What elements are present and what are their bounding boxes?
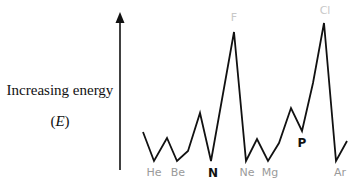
element-label-p: P (298, 136, 307, 150)
element-label-mg: Mg (262, 166, 278, 179)
element-label-n: N (208, 166, 218, 180)
element-label-ne: Ne (240, 166, 255, 179)
energy-chart: HeBeNFNeMgPClAr (0, 0, 356, 193)
element-label-he: He (146, 166, 161, 179)
arrowhead-icon (116, 12, 125, 23)
element-label-be: Be (171, 166, 186, 179)
element-label-cl: Cl (320, 4, 331, 17)
element-labels: HeBeNFNeMgPClAr (146, 4, 346, 180)
element-label-ar: Ar (334, 166, 347, 179)
energy-line (143, 23, 347, 161)
y-axis-arrow (116, 12, 125, 170)
element-label-f: F (231, 11, 237, 24)
